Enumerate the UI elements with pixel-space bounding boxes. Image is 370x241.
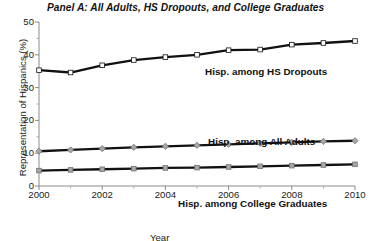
series-marker xyxy=(100,167,105,172)
y-axis-tick-label: 50 xyxy=(23,17,34,27)
series-marker xyxy=(195,53,200,58)
y-axis-tick-label: 30 xyxy=(23,83,34,93)
series-annotation-all-adults: Hisp. among All Adults xyxy=(208,136,315,147)
series-marker xyxy=(320,138,326,144)
series-marker xyxy=(68,70,73,75)
series-marker xyxy=(163,166,168,171)
series-marker xyxy=(353,162,358,167)
y-axis-tick-label: 40 xyxy=(23,50,34,60)
series-marker xyxy=(258,47,263,52)
series-marker xyxy=(226,165,231,170)
series-annotation-college-graduates: Hisp. among College Graduates xyxy=(178,198,327,209)
series-marker xyxy=(258,164,263,169)
y-axis-tick-label: 10 xyxy=(23,148,34,158)
x-axis-tick-label: 2002 xyxy=(82,189,122,200)
series-marker xyxy=(195,165,200,170)
series-marker xyxy=(226,48,231,53)
series-canvas xyxy=(39,22,355,186)
series-marker xyxy=(68,147,74,153)
series-marker xyxy=(163,55,168,60)
series-marker xyxy=(321,41,326,46)
x-axis-tick-label: 2010 xyxy=(335,189,370,200)
series-marker xyxy=(37,168,42,173)
plot-area xyxy=(39,22,355,186)
series-marker xyxy=(194,142,200,148)
series-marker xyxy=(68,168,73,173)
series-marker xyxy=(353,39,358,44)
series-3 xyxy=(37,162,358,173)
y-axis-tick-label: 20 xyxy=(23,115,34,125)
series-marker xyxy=(290,163,295,168)
series-marker xyxy=(132,166,137,171)
series-annotation-hs-dropouts: Hisp. among HS Dropouts xyxy=(205,66,327,77)
series-marker xyxy=(131,144,137,150)
series-marker xyxy=(100,63,105,68)
series-marker xyxy=(99,146,105,152)
series-marker xyxy=(37,68,42,73)
series-marker xyxy=(132,58,137,63)
x-axis-tick-label: 2000 xyxy=(19,189,59,200)
series-marker xyxy=(321,163,326,168)
series-marker xyxy=(162,143,168,149)
y-axis-tick-labels: 01020304050 xyxy=(12,0,34,241)
series-marker xyxy=(290,42,295,47)
